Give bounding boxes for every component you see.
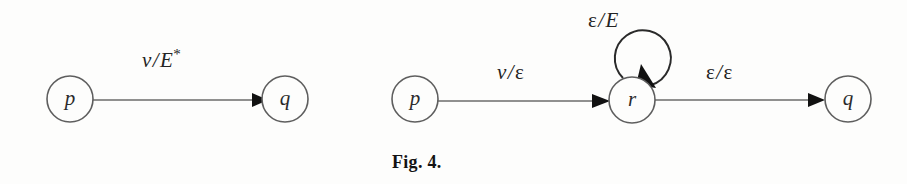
left-automaton-group: p q (47, 76, 308, 122)
edge-label-input-v: v (497, 60, 507, 84)
edge-label-separator: / (507, 60, 515, 84)
edge-label-input-epsilon: ε (588, 8, 597, 32)
edge-label-output-epsilon: ε (723, 60, 732, 84)
edge-label-epsilon-e: ε/E (588, 8, 619, 33)
edge-label-v-epsilon: v/ε (497, 60, 524, 85)
edge-p-to-r-arrowhead (592, 94, 610, 108)
edge-label-output-epsilon: ε (515, 60, 524, 84)
edge-label-kleene-star: * (173, 46, 181, 62)
figure-container: p q p r q v/E* (0, 0, 907, 184)
edge-label-epsilon-epsilon: ε/ε (706, 60, 733, 85)
edge-r-to-q-arrowhead (808, 93, 825, 107)
edge-label-v-e-star: v/E* (142, 48, 181, 73)
automata-diagram-svg: p q p r q (0, 0, 907, 184)
right-automaton-group: p r q (392, 30, 871, 123)
node-right-r-label: r (628, 87, 637, 111)
edge-label-output-e: E (160, 48, 173, 72)
node-right-p-label: p (408, 86, 421, 110)
edge-label-output-e: E (605, 8, 618, 32)
edge-label-input-v: v (142, 48, 152, 72)
node-left-q-label: q (280, 86, 291, 110)
edge-label-input-epsilon: ε (706, 60, 715, 84)
node-right-q-label: q (843, 86, 854, 110)
figure-caption: Fig. 4. (392, 152, 442, 173)
edge-label-separator: / (152, 48, 160, 72)
node-left-p-label: p (63, 86, 76, 110)
